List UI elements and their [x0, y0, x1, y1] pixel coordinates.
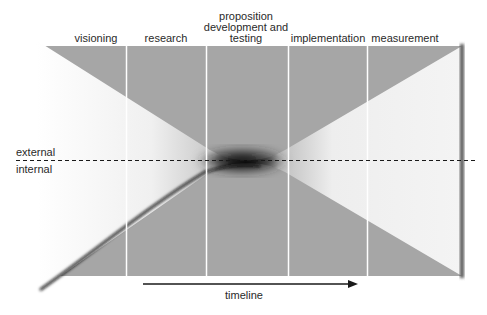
- phase-label-implementation: implementation: [291, 33, 366, 44]
- timeline-label: timeline: [225, 289, 263, 301]
- external-label: external: [16, 147, 55, 158]
- phase-label-research: research: [145, 33, 188, 44]
- timeline-arrow: [143, 280, 358, 288]
- internal-label: internal: [16, 164, 52, 175]
- arrowhead-icon: [348, 280, 358, 288]
- phase-label-proposition: proposition development and testing: [204, 11, 288, 44]
- hourglass-diagram: [0, 0, 487, 315]
- phase-label-measurement: measurement: [371, 33, 438, 44]
- phase-label-visioning: visioning: [75, 33, 118, 44]
- phase-label-line: testing: [204, 33, 288, 44]
- diagram-canvas: visioning research proposition developme…: [0, 0, 487, 315]
